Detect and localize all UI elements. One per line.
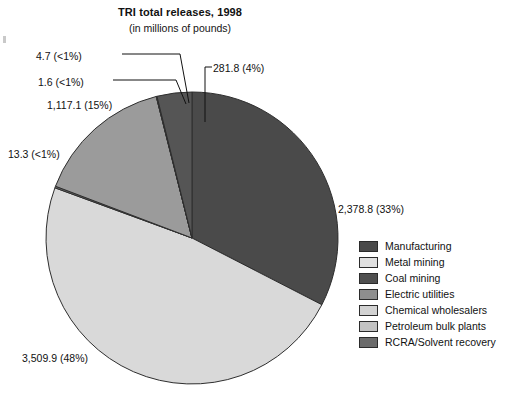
legend-swatch xyxy=(359,257,378,268)
legend-item-label: Chemical wholesalers xyxy=(385,304,487,316)
legend-item: Electric utilities xyxy=(359,286,515,302)
legend-item: RCRA/Solvent recovery xyxy=(359,334,515,350)
legend-item: Chemical wholesalers xyxy=(359,302,515,318)
data-label-manufacturing: 2,378.8 (33%) xyxy=(338,203,404,215)
data-label-metal-mining: 3,509.9 (48%) xyxy=(22,352,88,364)
data-label-chemical-wholesalers: 1.6 (<1%) xyxy=(38,76,84,88)
legend-swatch xyxy=(359,289,378,300)
legend-item-label: RCRA/Solvent recovery xyxy=(385,336,496,348)
data-label-electric-utilities: 1,117.1 (15%) xyxy=(47,99,112,111)
legend-item: Manufacturing xyxy=(359,238,515,254)
legend-item: Metal mining xyxy=(359,254,515,270)
legend-item: Petroleum bulk plants xyxy=(359,318,515,334)
pie-slice-group xyxy=(46,92,338,384)
legend-item-label: Electric utilities xyxy=(385,288,454,300)
chart-legend: ManufacturingMetal miningCoal miningElec… xyxy=(359,238,515,350)
data-label-petroleum-bulk-plants: 4.7 (<1%) xyxy=(36,50,82,62)
data-label-rcra-solvent-recovery: 13.3 (<1%) xyxy=(8,148,60,160)
legend-item-label: Coal mining xyxy=(385,272,440,284)
legend-swatch xyxy=(359,305,378,316)
legend-item: Coal mining xyxy=(359,270,515,286)
legend-swatch xyxy=(359,273,378,284)
legend-swatch xyxy=(359,241,378,252)
data-label-coal-mining: 281.8 (4%) xyxy=(213,62,264,74)
legend-item-label: Manufacturing xyxy=(385,240,452,252)
legend-swatch xyxy=(359,337,378,348)
legend-item-label: Metal mining xyxy=(385,256,445,268)
legend-item-label: Petroleum bulk plants xyxy=(385,320,486,332)
legend-swatch xyxy=(359,321,378,332)
